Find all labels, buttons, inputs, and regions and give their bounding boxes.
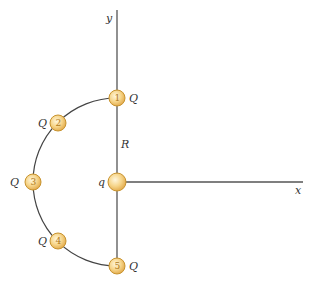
charge-3: 3 Q bbox=[10, 174, 41, 190]
y-axis-label: y bbox=[105, 12, 113, 25]
charge-2: 2 Q bbox=[38, 115, 66, 131]
svg-text:4: 4 bbox=[56, 236, 62, 246]
svg-text:3: 3 bbox=[31, 177, 37, 187]
svg-text:5: 5 bbox=[115, 261, 121, 271]
charge-diagram: y x R q 1 Q 2 Q 3 Q 4 Q 5 Q bbox=[0, 0, 318, 282]
center-charge-label: q bbox=[98, 176, 105, 189]
svg-text:Q: Q bbox=[10, 176, 19, 189]
svg-text:Q: Q bbox=[129, 260, 138, 273]
svg-text:1: 1 bbox=[115, 93, 121, 103]
charge-4: 4 Q bbox=[38, 233, 66, 249]
svg-text:Q: Q bbox=[38, 235, 47, 248]
svg-text:Q: Q bbox=[38, 117, 47, 130]
svg-text:Q: Q bbox=[129, 92, 138, 105]
radius-label: R bbox=[120, 138, 129, 151]
x-axis-label: x bbox=[295, 184, 302, 197]
center-charge bbox=[108, 173, 126, 191]
charge-1: 1 Q bbox=[109, 90, 138, 106]
charge-5: 5 Q bbox=[109, 258, 138, 274]
svg-text:2: 2 bbox=[56, 118, 62, 128]
